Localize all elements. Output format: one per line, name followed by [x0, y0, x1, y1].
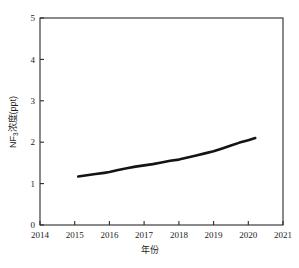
- x-tick-label: 2018: [170, 230, 189, 240]
- x-axis-title: 年份: [141, 244, 159, 255]
- x-tick-labels: 2014 2015 2016 2017 2018 2019 2020 2021: [31, 230, 292, 240]
- y-axis-title-text: NF3浓度(ppt): [7, 96, 19, 148]
- chart-figure: 0 1 2 3 4 5 2014 2015 2016 2017 2018 201…: [0, 0, 299, 268]
- y-axis-title: NF3浓度(ppt): [7, 96, 19, 148]
- x-axis-ticks: [40, 221, 283, 225]
- y-axis-ticks: [40, 18, 44, 225]
- y-tick-label: 5: [31, 13, 36, 23]
- x-tick-label: 2019: [205, 230, 224, 240]
- x-tick-label: 2014: [31, 230, 50, 240]
- y-axis-title-rest: 浓度(ppt): [7, 96, 18, 133]
- plot-frame: [40, 18, 283, 225]
- y-axis-title-base: NF: [8, 136, 18, 148]
- y-tick-label: 2: [31, 137, 36, 147]
- y-tick-label: 0: [31, 220, 36, 230]
- x-tick-label: 2021: [274, 230, 292, 240]
- x-tick-label: 2015: [66, 230, 85, 240]
- x-tick-label: 2017: [135, 230, 154, 240]
- x-tick-label: 2020: [239, 230, 258, 240]
- y-tick-label: 1: [31, 179, 36, 189]
- x-tick-label: 2016: [100, 230, 119, 240]
- y-tick-labels: 0 1 2 3 4 5: [31, 13, 36, 230]
- data-series-line: [78, 138, 255, 177]
- y-tick-label: 3: [31, 96, 36, 106]
- y-tick-label: 4: [31, 55, 36, 65]
- line-chart: 0 1 2 3 4 5 2014 2015 2016 2017 2018 201…: [0, 0, 299, 268]
